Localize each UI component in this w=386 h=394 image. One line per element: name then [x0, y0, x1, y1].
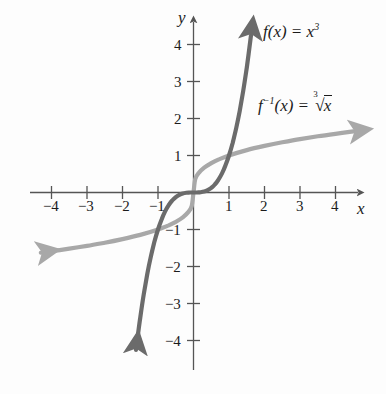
y-tick-label-4: 4 — [174, 38, 181, 53]
x-tick-label-3: 3 — [296, 199, 303, 214]
y-tick-label--2: −2 — [165, 260, 181, 275]
x-tick-label--4: −4 — [43, 199, 59, 214]
x-tick-label--3: −3 — [78, 199, 94, 214]
inverse-exponent: −1 — [263, 95, 275, 106]
x-base-f: x — [307, 22, 315, 41]
x-tick-label-2: 2 — [260, 199, 267, 214]
y-tick-label--3: −3 — [165, 297, 181, 312]
cube-exponent: 3 — [314, 21, 319, 32]
y-tick-label--1: −1 — [165, 223, 181, 238]
x-tick-label-1: 1 — [225, 199, 232, 214]
radicand: x — [324, 95, 333, 115]
x-tick-label-4: 4 — [331, 199, 338, 214]
y-tick-label-2: 2 — [174, 112, 181, 127]
f-inverse-argument: (x) — [274, 96, 293, 115]
curve-label-f-inverse: f−1(x) = 3√x — [258, 96, 332, 114]
equals-sign-f: = — [291, 22, 302, 41]
cube-root-radical: 3√x — [313, 97, 332, 114]
graph-figure: −4 −3 −2 −1 1 2 3 4 4 3 2 1 −1 −2 −3 −4 … — [0, 0, 386, 394]
y-tick-label--4: −4 — [165, 334, 181, 349]
x-axis-label: x — [357, 200, 365, 217]
radical-index: 3 — [313, 90, 318, 99]
coordinate-plane-svg — [0, 0, 386, 394]
x-tick-label--1: −1 — [149, 199, 165, 214]
y-tick-label-1: 1 — [174, 149, 181, 164]
equals-sign-f-inverse: = — [298, 96, 309, 115]
x-tick-label--2: −2 — [114, 199, 130, 214]
y-axis-label: y — [178, 9, 186, 26]
f-argument: (x) — [268, 22, 287, 41]
curve-label-f: f(x) = x3 — [263, 22, 319, 40]
y-tick-label-3: 3 — [174, 75, 181, 90]
